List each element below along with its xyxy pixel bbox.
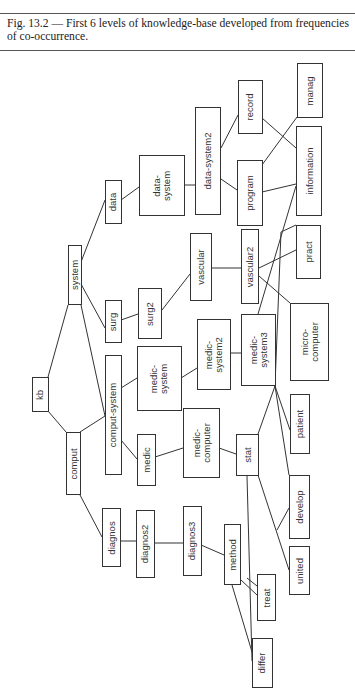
node-diagnos: diagnos (102, 508, 121, 567)
edge-medic-system3-stat (258, 386, 275, 434)
node-surg: surg (105, 300, 122, 343)
edge-kb-system (48, 305, 68, 377)
node-label: comput-system (109, 383, 119, 447)
node-information: information (296, 126, 322, 216)
node-label: treat (262, 588, 272, 607)
edge-system-data (81, 200, 105, 262)
node-patient: patient (290, 394, 310, 454)
node-medic-system3: medic- system3 (241, 314, 276, 386)
node-comput-system: comput-system (105, 355, 122, 475)
edge-comput-system-medic (121, 440, 137, 459)
edge-method-treat (247, 578, 257, 586)
edge-stat-develop (277, 508, 289, 530)
node-pract: pract (296, 225, 321, 279)
node-differ: differ (252, 638, 273, 688)
node-label: method (228, 539, 238, 571)
node-medic-system: medic- system (137, 346, 182, 411)
node-vascular2: vascular2 (241, 229, 259, 304)
node-data-system: data- system (139, 155, 185, 216)
node-label: vascular (196, 249, 206, 284)
node-label: medic (142, 447, 152, 472)
node-label: develop (295, 490, 305, 523)
node-treat: treat (257, 574, 276, 621)
node-manag: manag (297, 63, 323, 118)
node-label: surg2 (145, 302, 155, 326)
node-label: manag (305, 76, 315, 105)
edge-medic-medic-computer (155, 448, 183, 457)
edge-surg2-vascular (162, 274, 190, 310)
node-label: data-system2 (203, 132, 213, 189)
node-data-system2: data-system2 (195, 107, 221, 215)
node-micro-computer: micro- computer (290, 303, 329, 381)
edge-method-differ (232, 585, 252, 652)
node-label: surg (109, 312, 119, 330)
node-system: system (68, 245, 82, 305)
node-diagnos2: diagnos2 (136, 510, 155, 578)
node-record: record (238, 80, 263, 134)
edge-medic-system-medic-system2 (181, 368, 197, 378)
node-label: program (245, 175, 255, 210)
node-medic-computer: medic- computer (183, 408, 220, 478)
edge-comput-comput-system (80, 416, 105, 432)
node-diagnos3: diagnos3 (183, 506, 202, 576)
node-kb: kb (32, 377, 49, 412)
edge-stat-differ (247, 476, 252, 661)
node-label: data (109, 193, 119, 212)
edge-comput-system-medic-system (121, 378, 137, 388)
node-develop: develop (289, 475, 310, 539)
node-label: pract (304, 241, 314, 262)
edge-comput-diagnos (80, 495, 102, 537)
node-stat: stat (236, 434, 259, 476)
node-label: medic- computer (192, 423, 212, 463)
node-label: patient (295, 410, 305, 439)
node-label: stat (243, 447, 253, 462)
node-label: kb (35, 389, 45, 399)
edge-stat-united (258, 475, 289, 570)
edge-kb-comput (48, 411, 66, 432)
node-label: medic- system2 (204, 337, 224, 372)
node-label: comput (69, 448, 79, 479)
node-label: diagnos3 (188, 522, 198, 561)
node-data: data (105, 180, 122, 224)
edge-data-system2-record (221, 115, 238, 148)
node-label: data- system (152, 170, 172, 200)
node-method: method (224, 524, 241, 585)
node-label: medic- system (150, 363, 170, 393)
node-label: record (246, 94, 256, 121)
node-united: united (289, 546, 310, 595)
edge-vascular2-pract (259, 250, 296, 268)
edge-program-information (262, 184, 296, 192)
edge-medic-system3-patient (275, 386, 290, 430)
edge-medic-system3-information (258, 186, 296, 314)
node-label: micro- computer (300, 322, 320, 362)
edge-method-treat (241, 580, 257, 595)
edge-data-system2-program (221, 179, 237, 190)
edge-surg-surg2 (121, 314, 138, 320)
node-label: information (304, 148, 314, 195)
edge-medic-computer-stat (219, 448, 236, 454)
node-program: program (237, 160, 263, 226)
edge-vascular2-micro-computer (259, 276, 290, 303)
node-label: diagnos2 (141, 525, 151, 564)
node-medic: medic (137, 434, 156, 486)
node-label: differ (258, 653, 268, 674)
edge-program-manag (262, 117, 297, 165)
node-label: medic- system3 (249, 332, 269, 367)
node-label: diagnos (107, 521, 117, 554)
edge-diagnos3-method (201, 545, 224, 555)
node-comput: comput (66, 432, 81, 495)
edge-record-information (262, 118, 296, 148)
node-vascular: vascular (190, 233, 212, 301)
node-label: system (70, 260, 80, 290)
node-label: vascular2 (245, 246, 255, 287)
node-label: united (295, 558, 305, 584)
edge-medic-system3-develop (275, 386, 289, 475)
edge-data-data-system (121, 187, 139, 200)
node-medic-system2: medic- system2 (197, 319, 231, 390)
node-surg2: surg2 (138, 288, 162, 339)
